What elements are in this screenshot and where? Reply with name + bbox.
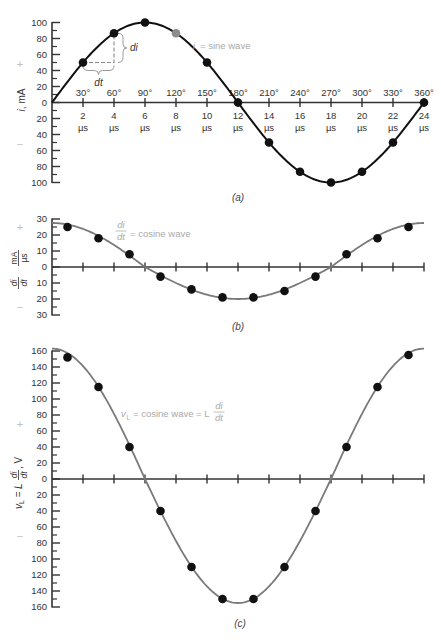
y-tick-label: 0 [42, 97, 47, 108]
y-tick-label: 80 [36, 537, 47, 548]
x-tick-unit-label: µs [357, 122, 367, 133]
x-tick-angle-label: 240° [290, 87, 310, 98]
data-point [373, 383, 382, 392]
y-tick-label: 100 [31, 393, 47, 404]
data-point [358, 167, 367, 176]
y-tick-label: 60 [36, 145, 47, 156]
data-point [125, 443, 134, 452]
data-point [280, 563, 289, 572]
x-tick-angle-label: 30° [76, 87, 91, 98]
data-point [79, 58, 88, 67]
panel-caption: (b) [232, 321, 244, 332]
dt-brace [83, 66, 114, 75]
y-axis-label-unit: , mA [16, 88, 27, 109]
negative-region-sign: − [17, 138, 23, 150]
y-tick-label: 100 [31, 177, 47, 188]
x-tick-angle-label: 120° [166, 87, 186, 98]
data-point [327, 178, 336, 187]
y-tick-label: 140 [31, 585, 47, 596]
panel-c: 1601401201008060402002040608010012014016… [9, 345, 425, 629]
y-label-unit-numerator: mA [9, 251, 19, 264]
data-point [110, 29, 119, 38]
y-label-numerator: di [9, 279, 19, 287]
x-tick-unit-label: µs [171, 122, 181, 133]
panel-b: 3020100102030+−(b)didtmAµsdidt= cosine w… [9, 213, 425, 332]
positive-region-sign: + [17, 58, 23, 70]
x-tick-unit-label: µs [109, 122, 119, 133]
data-point [311, 272, 320, 281]
data-point [249, 595, 258, 604]
y-tick-label: 40 [36, 505, 47, 516]
x-tick-unit-label: µs [202, 122, 212, 133]
y-tick-label: 20 [36, 81, 47, 92]
curve-label: vL= cosine wave = Ldidt [121, 400, 225, 423]
curve-label-denominator: dt [215, 412, 223, 423]
y-tick-label: 60 [36, 49, 47, 60]
data-point [311, 507, 320, 516]
x-tick-time-label: 20 [357, 110, 368, 121]
y-tick-label: 40 [36, 129, 47, 140]
y-label-denominator: dt [19, 471, 29, 479]
curve-label-text: = cosine wave = L [133, 408, 210, 419]
panel-caption: (c) [234, 618, 246, 629]
x-tick-time-label: 2 [80, 110, 85, 121]
y-label-unit-denominator: µs [19, 253, 29, 262]
di-brace [118, 33, 127, 62]
x-tick-unit-label: µs [264, 122, 274, 133]
x-tick-unit-label: µs [140, 122, 150, 133]
data-point [172, 29, 181, 38]
x-tick-time-label: 24 [419, 110, 430, 121]
y-tick-label: 0 [42, 473, 47, 484]
data-point [187, 563, 196, 572]
y-tick-label: 20 [36, 457, 47, 468]
data-point [187, 285, 196, 294]
x-tick-unit-label: µs [326, 122, 336, 133]
x-tick-time-label: 12 [233, 110, 244, 121]
x-tick-time-label: 18 [326, 110, 337, 121]
x-tick-unit-label: µs [388, 122, 398, 133]
curve-label-numerator: di [215, 400, 223, 411]
data-point [156, 507, 165, 516]
y-label-equals: = L [13, 483, 24, 500]
x-tick-time-label: 4 [111, 110, 116, 121]
x-tick-unit-label: µs [233, 122, 243, 133]
y-tick-label: 40 [36, 441, 47, 452]
data-point [280, 287, 289, 296]
curve-label: didt= cosine wave [116, 219, 191, 242]
panel-caption: (a) [232, 192, 244, 203]
y-tick-label: 140 [31, 361, 47, 372]
y-tick-label: 20 [36, 229, 47, 240]
curve-label-text: = sine wave [200, 40, 250, 51]
y-tick-label: 160 [31, 345, 47, 356]
y-label-denominator: dt [19, 279, 29, 287]
x-tick-time-label: 14 [264, 110, 275, 121]
data-point [296, 167, 305, 176]
data-point [125, 250, 134, 259]
x-tick-time-label: 8 [173, 110, 178, 121]
data-point [265, 138, 274, 147]
x-tick-angle-label: 270° [321, 87, 341, 98]
y-tick-label: 100 [31, 17, 47, 28]
y-tick-label: 80 [36, 409, 47, 420]
di-label: di [130, 42, 139, 53]
x-tick-unit-label: µs [78, 122, 88, 133]
curve-label-numerator: di [117, 219, 125, 230]
y-tick-label: 0 [42, 261, 47, 272]
data-point [156, 272, 165, 281]
x-tick-unit-label: µs [419, 122, 429, 133]
y-tick-label: 30 [36, 309, 47, 320]
data-point [249, 293, 258, 302]
x-tick-unit-label: µs [295, 122, 305, 133]
data-point [342, 250, 351, 259]
data-point [404, 351, 413, 360]
data-point [342, 443, 351, 452]
curve-label-text: = cosine wave [130, 228, 190, 239]
y-tick-label: 60 [36, 521, 47, 532]
curve-label-denominator: dt [117, 231, 125, 242]
negative-region-sign: − [17, 530, 23, 542]
curve-label-subscript: L [127, 414, 131, 421]
x-tick-angle-label: 210° [259, 87, 279, 98]
y-label-lhs: vL = L [13, 483, 25, 509]
x-tick-angle-label: 60° [107, 87, 122, 98]
y-tick-label: 30 [36, 213, 47, 224]
